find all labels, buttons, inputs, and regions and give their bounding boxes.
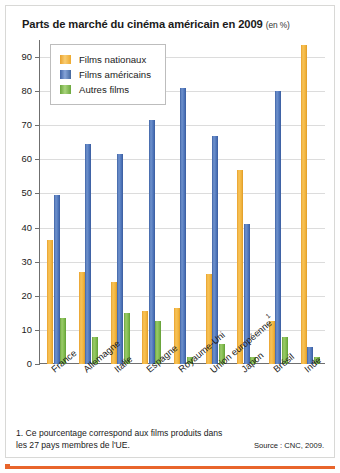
bar	[174, 308, 180, 364]
bar-group	[206, 40, 225, 364]
y-axis-tick-label: 20	[6, 291, 32, 300]
bar	[117, 154, 123, 364]
y-axis-tick	[35, 91, 40, 92]
bar	[149, 120, 155, 364]
chart-footnote: 1. Ce pourcentage correspond aux films p…	[16, 428, 231, 451]
bar	[301, 45, 307, 364]
y-axis-tick	[35, 330, 40, 331]
chart-title: Parts de marché du cinéma américain en 2…	[22, 18, 322, 30]
y-axis-tick-label: 0	[6, 359, 32, 368]
y-axis-tick	[35, 57, 40, 58]
y-axis-tick	[35, 125, 40, 126]
legend-label: Autres films	[79, 84, 129, 95]
chart-title-unit: (en %)	[266, 20, 290, 30]
bar	[142, 311, 148, 364]
y-axis-tick-label: 70	[6, 120, 32, 129]
y-axis-tick	[35, 159, 40, 160]
bar	[47, 240, 53, 364]
y-axis-tick-label: 10	[6, 325, 32, 334]
y-axis-tick-label: 40	[6, 223, 32, 232]
y-axis-tick	[35, 364, 40, 365]
y-axis-tick	[35, 262, 40, 263]
legend-swatch-icon	[60, 85, 71, 94]
y-axis-tick-label: 50	[6, 188, 32, 197]
chart-source: Source : CNC, 2009.	[254, 441, 324, 450]
legend-item-autres-films: Autres films	[60, 82, 151, 97]
bar	[54, 195, 60, 364]
chart-title-text: Parts de marché du cinéma américain en 2…	[22, 18, 263, 30]
y-axis-tick	[35, 193, 40, 194]
bar-group	[174, 40, 193, 364]
y-axis	[39, 40, 40, 365]
bar	[79, 272, 85, 364]
bar-group	[301, 40, 320, 364]
y-axis-tick-label: 60	[6, 154, 32, 163]
bar-group	[237, 40, 256, 364]
legend-swatch-icon	[60, 70, 71, 79]
chart-figure: Parts de marché du cinéma américain en 2…	[0, 0, 340, 473]
bar	[85, 144, 91, 364]
y-axis-tick-label: 30	[6, 257, 32, 266]
legend-swatch-icon	[60, 55, 71, 64]
legend-label: Films américains	[79, 69, 151, 80]
legend-item-films-americains: Films américains	[60, 67, 151, 82]
bottom-accent-bar	[5, 466, 335, 469]
y-axis-tick	[35, 228, 40, 229]
chart-legend: Films nationaux Films américains Autres …	[50, 44, 166, 105]
y-axis-tick-label: 80	[6, 86, 32, 95]
bar	[180, 88, 186, 364]
x-axis-labels: FranceAllemagneItalieEspagneRoyaume-UniU…	[40, 366, 340, 426]
y-axis-tick-label: 90	[6, 52, 32, 61]
legend-item-films-nationaux: Films nationaux	[60, 52, 151, 67]
y-axis-tick	[35, 296, 40, 297]
accent-cap	[5, 464, 10, 469]
bar-group	[269, 40, 288, 364]
legend-label: Films nationaux	[79, 54, 146, 65]
